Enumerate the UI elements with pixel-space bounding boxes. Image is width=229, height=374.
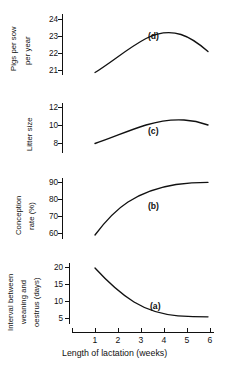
panel-a-letter: (a) xyxy=(150,302,161,311)
x-tick-5: 5 xyxy=(181,336,193,345)
panel-d-letter: (d) xyxy=(148,32,159,41)
figure-lactation-length-effects: Pigs per sow per year 24 23 22 21 (d) Li… xyxy=(0,0,229,374)
x-tick-2: 2 xyxy=(112,336,124,345)
panel-b-y-ticks xyxy=(58,183,63,234)
panel-b-conception-rate: Conception rate (%) 90 80 70 60 (b) xyxy=(0,173,229,257)
x-axis-title: Length of lactation (weeks) xyxy=(62,349,167,358)
panel-c-litter-size: Litter size 12 10 8 (c) xyxy=(0,95,229,173)
x-tick-6: 6 xyxy=(204,336,216,345)
panel-b-letter: (b) xyxy=(148,202,159,211)
panel-d-y-ticks xyxy=(58,20,63,71)
x-tick-1: 1 xyxy=(89,336,101,345)
panel-a-y-ticks xyxy=(65,268,70,319)
panel-a-weaning-oestrus-interval: Interval between weaning and oestrus (da… xyxy=(0,257,229,374)
panel-d-pigs-per-sow: Pigs per sow per year 24 23 22 21 (d) xyxy=(0,0,229,95)
panel-b-plot xyxy=(0,173,229,257)
panel-d-plot xyxy=(0,0,229,95)
panel-c-letter: (c) xyxy=(148,127,159,136)
panel-c-y-ticks xyxy=(58,108,63,144)
x-axis-ticks xyxy=(73,328,211,333)
panel-c-plot xyxy=(0,95,229,173)
x-tick-3: 3 xyxy=(135,336,147,345)
x-tick-4: 4 xyxy=(158,336,170,345)
